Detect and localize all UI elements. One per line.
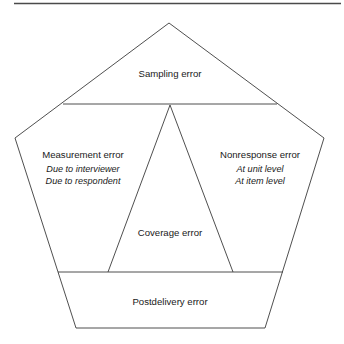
measurement-error-label: Measurement error: [42, 149, 124, 160]
nonresponse-error-sublabel-2: At item level: [234, 176, 286, 186]
coverage-triangle-outline: [108, 105, 233, 272]
survey-error-pentagon-diagram: Sampling error Measurement error Due to …: [0, 0, 344, 344]
diagram-root: Sampling error Measurement error Due to …: [0, 0, 344, 344]
postdelivery-error-label: Postdelivery error: [132, 296, 208, 307]
nonresponse-error-sublabel-1: At unit level: [235, 164, 284, 174]
coverage-error-label: Coverage error: [138, 227, 203, 238]
nonresponse-error-label: Nonresponse error: [220, 149, 301, 160]
measurement-error-sublabel-1: Due to interviewer: [46, 164, 120, 174]
measurement-error-sublabel-2: Due to respondent: [46, 176, 121, 186]
sampling-error-label: Sampling error: [139, 68, 203, 79]
